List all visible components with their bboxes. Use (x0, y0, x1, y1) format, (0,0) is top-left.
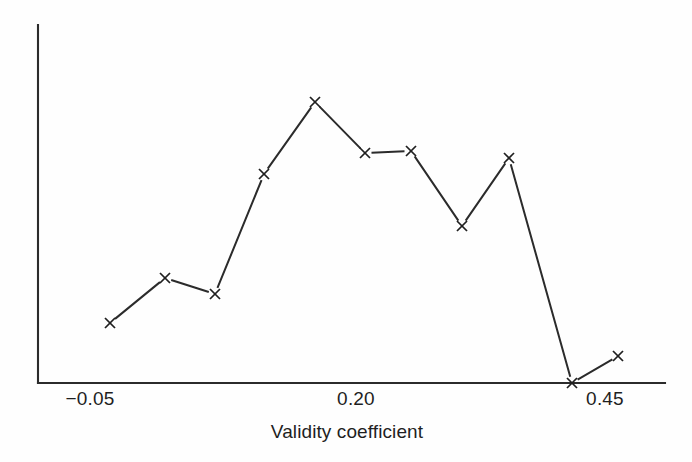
data-point-marker (457, 221, 467, 231)
series-line (115, 107, 612, 380)
data-point-marker (259, 169, 269, 179)
x-tick-label-minus-0-05: −0.05 (65, 389, 114, 408)
data-point-marker (360, 148, 370, 158)
data-point-markers (105, 97, 623, 388)
data-point-marker (210, 289, 220, 299)
x-axis-title: Validity coefficient (271, 422, 423, 441)
data-point-marker (310, 97, 320, 107)
data-point-marker (105, 318, 115, 328)
x-tick-label-0-20: 0.20 (337, 389, 375, 408)
data-point-marker (406, 146, 416, 156)
data-point-marker (504, 153, 514, 163)
chart-figure: −0.05 0.20 0.45 Validity coefficient (0, 0, 692, 462)
data-point-marker (613, 351, 623, 361)
data-series-group (105, 97, 623, 388)
axes-group (38, 25, 665, 383)
x-tick-label-0-45: 0.45 (586, 389, 624, 408)
data-point-marker (160, 273, 170, 283)
